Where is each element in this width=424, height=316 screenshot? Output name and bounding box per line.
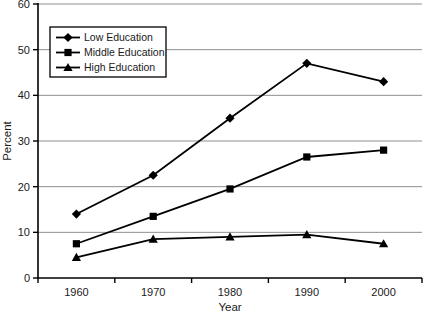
x-tick-label: 2000	[371, 286, 395, 298]
square-marker-middle-education	[150, 213, 157, 220]
y-tick-label: 40	[18, 89, 30, 101]
y-axis-title: Percent	[1, 120, 13, 160]
diamond-marker-low-education	[379, 77, 388, 86]
square-marker-middle-education	[226, 185, 233, 192]
legend-label: Low Education	[84, 31, 153, 43]
diamond-marker-low-education	[72, 209, 81, 218]
square-marker-middle-education	[380, 147, 387, 154]
x-tick-label: 1970	[141, 286, 165, 298]
square-marker-middle-education	[303, 153, 310, 160]
y-tick-label: 20	[18, 181, 30, 193]
x-tick-label: 1960	[64, 286, 88, 298]
y-tick-label: 0	[24, 272, 30, 284]
y-tick-label: 50	[18, 44, 30, 56]
y-tick-label: 60	[18, 0, 30, 10]
line-chart: 010203040506019601970198019902000Low Edu…	[0, 0, 424, 316]
legend-square-marker	[64, 49, 71, 56]
y-tick-label: 30	[18, 135, 30, 147]
series-line-middle-education	[76, 150, 383, 244]
legend-label: Middle Education	[84, 46, 165, 58]
x-tick-label: 1990	[295, 286, 319, 298]
legend-label: High Education	[84, 61, 155, 73]
chart-canvas: 010203040506019601970198019902000Low Edu…	[0, 0, 424, 316]
y-tick-label: 10	[18, 226, 30, 238]
square-marker-middle-education	[73, 240, 80, 247]
x-axis-title: Year	[218, 301, 241, 313]
x-tick-label: 1980	[218, 286, 242, 298]
